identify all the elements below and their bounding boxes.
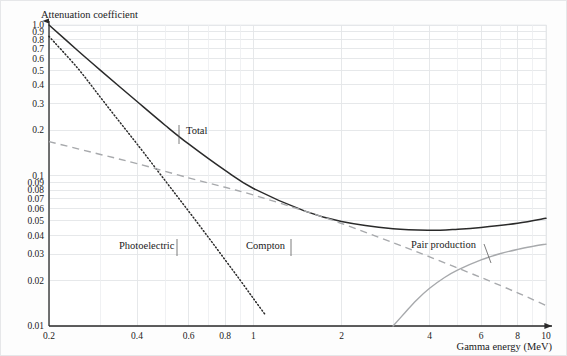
- x-tick-label: 4: [427, 331, 432, 341]
- y-tick-label: 0.03: [27, 249, 44, 259]
- gridlines: [49, 25, 546, 326]
- x-tick-label: 8: [515, 331, 520, 341]
- y-tick-label: 0.2: [32, 125, 44, 135]
- x-tick-label: 0.4: [131, 331, 143, 341]
- annotation-label-photoelectric: Photoelectric: [119, 240, 175, 251]
- x-tick-label: 10: [541, 331, 551, 341]
- y-tick-label: 0.1: [32, 171, 44, 181]
- attenuation-coefficient-chart: 0.010.020.030.040.050.060.070.080.090.10…: [1, 1, 567, 356]
- x-axis-title: Gamma energy (MeV): [457, 341, 553, 353]
- annotation-label-compton: Compton: [246, 240, 286, 251]
- y-axis-title: Attenuation coefficient: [41, 9, 138, 20]
- x-tick-label: 0.8: [219, 331, 231, 341]
- y-tick-label: 1.0: [32, 20, 44, 30]
- y-tick-label: 0.01: [27, 321, 44, 331]
- y-tick-label: 0.02: [27, 276, 44, 286]
- y-tick-label: 0.3: [32, 99, 44, 109]
- x-tick-label: 0.2: [43, 331, 55, 341]
- y-tick-label: 0.4: [32, 80, 44, 90]
- y-tick-label: 0.7: [32, 44, 44, 54]
- y-tick-label: 0.6: [32, 54, 44, 64]
- y-tick-label: 0.05: [27, 216, 44, 226]
- figure-container: 0.010.020.030.040.050.060.070.080.090.10…: [0, 0, 567, 356]
- x-tick-label: 6: [479, 331, 484, 341]
- x-tick-label: 0.6: [183, 331, 195, 341]
- x-axis-tick-labels: 0.20.40.60.81246810: [43, 331, 551, 341]
- x-tick-label: 2: [339, 331, 344, 341]
- y-tick-label: 0.5: [32, 66, 44, 76]
- annotation-label-total: Total: [186, 125, 208, 136]
- y-axis-tick-labels: 0.010.020.030.040.050.060.070.080.090.10…: [27, 20, 44, 331]
- y-tick-label: 0.04: [27, 231, 44, 241]
- y-tick-label: 0.07: [27, 194, 44, 204]
- x-tick-label: 1: [251, 331, 256, 341]
- annotation-label-pair-production: Pair production: [411, 239, 477, 250]
- y-tick-label: 0.06: [27, 204, 44, 214]
